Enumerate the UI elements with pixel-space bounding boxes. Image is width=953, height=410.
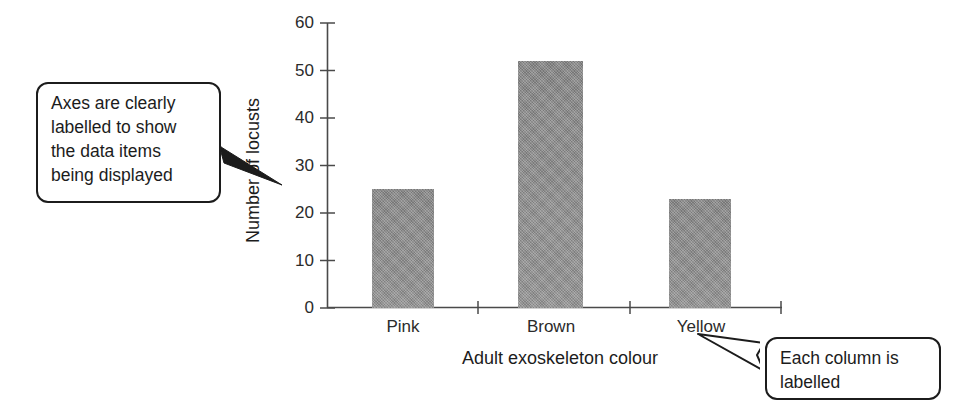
- callout-columns-labelled: Each column is labelled: [765, 337, 941, 400]
- ytick-label-50: 50: [274, 62, 314, 79]
- callout-axes-line-4: being displayed: [51, 163, 207, 187]
- x-axis-title: Adult exoskeleton colour: [330, 348, 790, 369]
- callout-axes-line-3: the data items: [51, 139, 207, 163]
- ytick-label-10: 10: [274, 252, 314, 269]
- ytick-label-0: 0: [274, 299, 314, 316]
- ytick-label-40: 40: [274, 109, 314, 126]
- callout-axes-labelled: Axes are clearly labelled to show the da…: [36, 82, 221, 203]
- bar-yellow: [669, 199, 731, 308]
- callout-axes-line-1: Axes are clearly: [51, 91, 207, 115]
- xtick-label-pink: Pink: [343, 318, 463, 335]
- callout-axes-line-2: labelled to show: [51, 115, 207, 139]
- callout-columns-line-1: Each column is: [780, 346, 927, 370]
- ytick-label-60: 60: [274, 14, 314, 31]
- bar-pink: [372, 189, 434, 308]
- chart-page: 60 50 40 30 20 10 0 Pink Brown Yellow Ad…: [0, 0, 953, 410]
- ytick-label-30: 30: [274, 157, 314, 174]
- xtick-label-yellow: Yellow: [641, 318, 761, 335]
- ytick-label-20: 20: [274, 204, 314, 221]
- xtick-label-brown: Brown: [491, 318, 611, 335]
- callout-columns-line-2: labelled: [780, 370, 927, 394]
- bar-brown: [518, 61, 583, 308]
